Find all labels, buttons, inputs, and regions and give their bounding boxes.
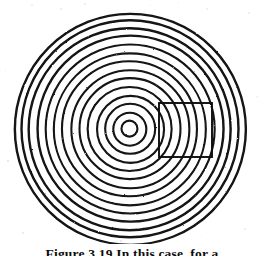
figure-container: Figure 3.19 In this case, for a: [0, 0, 264, 256]
figure-caption: Figure 3.19 In this case, for a: [0, 246, 264, 256]
concentric-circles-diagram: [0, 0, 264, 256]
